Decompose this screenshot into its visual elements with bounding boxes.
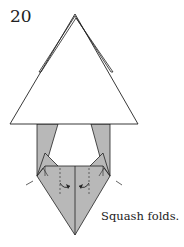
left-tick — [26, 181, 33, 185]
step-caption: Squash folds. — [101, 209, 179, 223]
right-tick — [116, 181, 122, 185]
top-triangle — [10, 14, 138, 124]
bottom-point — [37, 166, 110, 235]
